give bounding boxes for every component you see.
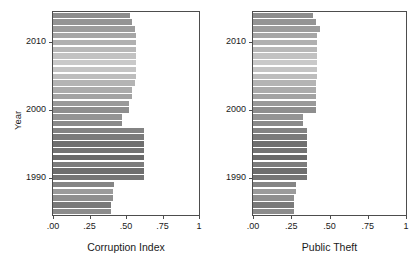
bar-row [53,155,144,160]
bar-row [53,47,136,52]
bar-row [253,148,307,153]
y-tick-label: 1990 [12,173,46,182]
bar-row [253,47,317,52]
bar-row [53,195,113,200]
bar-row [253,94,316,99]
x-tick-label: .25 [275,222,307,231]
bar-row [253,67,317,72]
bar-row [53,168,144,173]
x-tick-label: .00 [237,222,269,231]
bar-series-public-theft [253,12,406,215]
bar-row [253,128,307,133]
bar-row [253,87,316,92]
bar-row [253,107,316,112]
bar-row [53,121,122,126]
y-tick-mark [249,42,252,43]
y-tick-label: 2000 [12,105,46,114]
bar-row [253,74,317,79]
bar-row [53,101,129,106]
x-tick-label: .75 [147,222,179,231]
chart-panel-corruption-index: Year 199020002010 .00.25.50.751 Corrupti… [0,0,208,262]
bar-row [53,114,122,119]
y-tick-mark [49,178,52,179]
bar-row [253,40,317,45]
bar-row [253,141,307,146]
x-tick-mark [291,216,292,219]
y-tick-label: 1990 [212,173,246,182]
bar-row [53,87,132,92]
bar-row [253,209,294,214]
bar-row [53,141,144,146]
bar-row [53,148,144,153]
plot-area-corruption-index [52,11,200,216]
x-tick-label: .25 [74,222,106,231]
y-tick-mark [49,110,52,111]
bar-row [53,182,114,187]
bar-row [253,202,294,207]
x-tick-mark [53,216,54,219]
x-tick-mark [253,216,254,219]
bar-row [53,128,144,133]
bar-row [53,33,136,38]
bar-row [253,19,316,24]
bar-row [53,162,144,167]
bar-row [53,40,136,45]
x-tick-mark [368,216,369,219]
bar-row [53,26,135,31]
y-tick-mark [249,110,252,111]
bar-row [53,74,136,79]
bar-row [253,134,307,139]
bar-row [253,182,296,187]
bar-row [253,155,307,160]
bar-row [253,80,316,85]
bar-row [53,107,129,112]
bar-series-corruption-index [53,12,199,215]
x-tick-mark [90,216,91,219]
bar-row [253,13,313,18]
bar-row [253,53,317,58]
bar-row [53,53,136,58]
bar-row [53,134,144,139]
x-tick-label: 1 [390,222,417,231]
y-tick-label: 2010 [12,37,46,46]
x-tick-mark [163,216,164,219]
x-axis-label-left: Corruption Index [52,241,200,253]
bar-row [53,94,132,99]
y-tick-mark [249,178,252,179]
x-tick-mark [199,216,200,219]
bar-row [253,60,317,65]
y-tick-mark [49,42,52,43]
x-tick-label: .50 [314,222,346,231]
bar-row [53,60,136,65]
y-tick-label: 2010 [212,37,246,46]
bar-row [53,13,130,18]
bar-row [53,189,113,194]
bar-row [53,209,111,214]
bar-row [53,67,136,72]
bar-row [253,121,303,126]
bar-row [53,175,144,180]
x-tick-mark [126,216,127,219]
bar-row [53,19,132,24]
figure-root: Year 199020002010 .00.25.50.751 Corrupti… [0,0,417,262]
bar-row [253,33,317,38]
bar-row [253,195,294,200]
x-tick-mark [330,216,331,219]
x-tick-label: .50 [110,222,142,231]
y-tick-label: 2000 [212,105,246,114]
bar-row [253,101,316,106]
x-tick-label: .75 [352,222,384,231]
x-tick-mark [406,216,407,219]
bar-row [253,162,307,167]
bar-row [253,168,307,173]
plot-area-public-theft [252,11,407,216]
bar-row [253,26,320,31]
bar-row [53,80,135,85]
bar-row [253,114,303,119]
bar-row [53,202,111,207]
chart-panel-public-theft: 199020002010 .00.25.50.751 Public Theft [209,0,417,262]
x-tick-label: .00 [37,222,69,231]
bar-row [253,189,296,194]
bar-row [253,175,307,180]
x-axis-label-right: Public Theft [252,241,407,253]
